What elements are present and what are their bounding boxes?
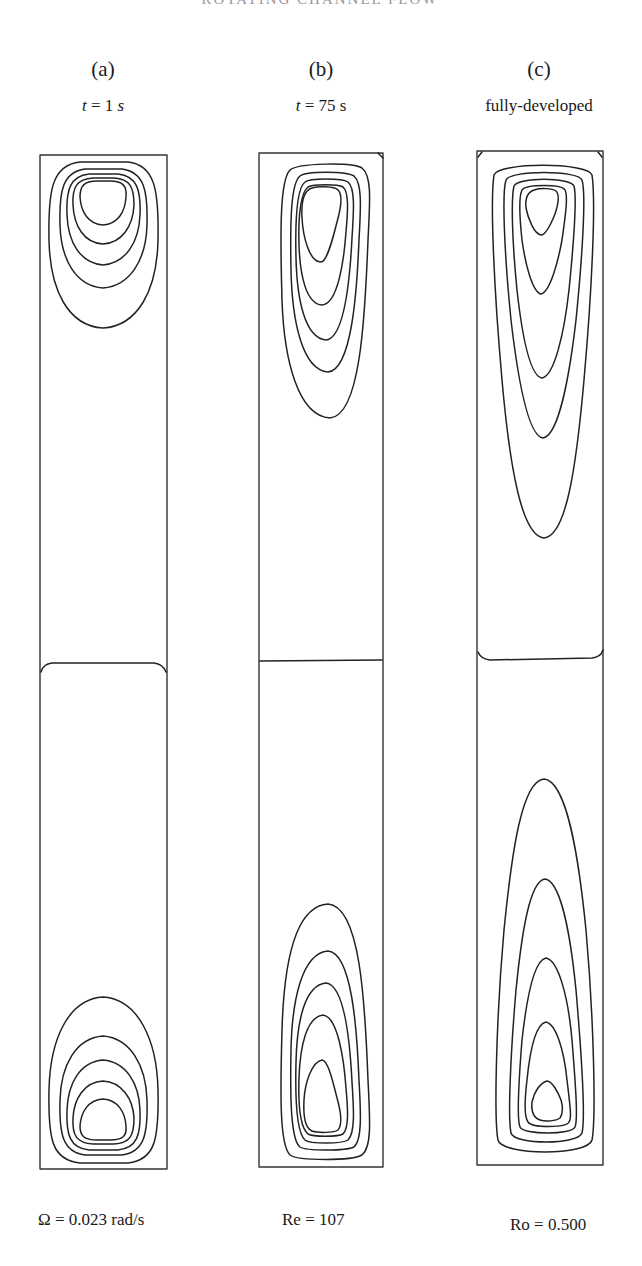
panel-c-corner-marks: [478, 152, 602, 157]
panel-c-bottom-vortex: [496, 779, 594, 1152]
panel-a-plot: [40, 155, 167, 1169]
panel-b-corner-mark: [378, 153, 383, 158]
parameter-rossby: Ro = 0.500: [510, 1215, 586, 1235]
panel-a-divider: [41, 663, 166, 672]
panel-c-plot: [477, 151, 603, 1165]
panel-c-top-vortex: [492, 165, 593, 538]
parameter-reynolds: Re = 107: [282, 1210, 344, 1230]
panel-a-top-vortex: [49, 162, 158, 328]
panel-b-divider: [260, 660, 382, 661]
parameter-omega: Ω = 0.023 rad/s: [38, 1210, 144, 1230]
panel-b-plot: [259, 153, 383, 1167]
contour-figure: [0, 0, 642, 1266]
panel-b-bottom-vortex: [281, 904, 370, 1160]
panel-b-top-vortex: [281, 164, 370, 418]
panel-a-bottom-vortex: [49, 997, 158, 1163]
panel-a-frame: [40, 155, 167, 1169]
panel-c-divider: [478, 650, 603, 660]
